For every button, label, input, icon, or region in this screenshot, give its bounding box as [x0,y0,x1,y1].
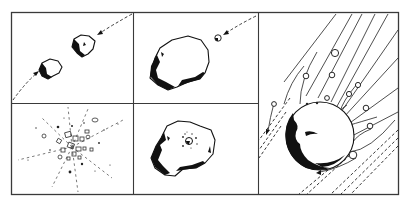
arrow-icon [97,30,103,35]
radiating-lines [18,107,125,192]
panel-grid [12,13,399,195]
panel-top-left [13,14,132,100]
panel-bottom-middle [151,121,215,176]
impactor-trajectory [226,16,256,33]
trajectory-lower [13,73,37,100]
sweeping-body [285,102,354,170]
arrow-icon [223,30,229,35]
figure [0,0,409,207]
panel-top-middle [150,16,256,90]
panel-bottom-left [18,107,125,192]
illustration-canvas [0,0,409,207]
panel-right [259,14,398,195]
trajectory-upper [100,14,132,33]
